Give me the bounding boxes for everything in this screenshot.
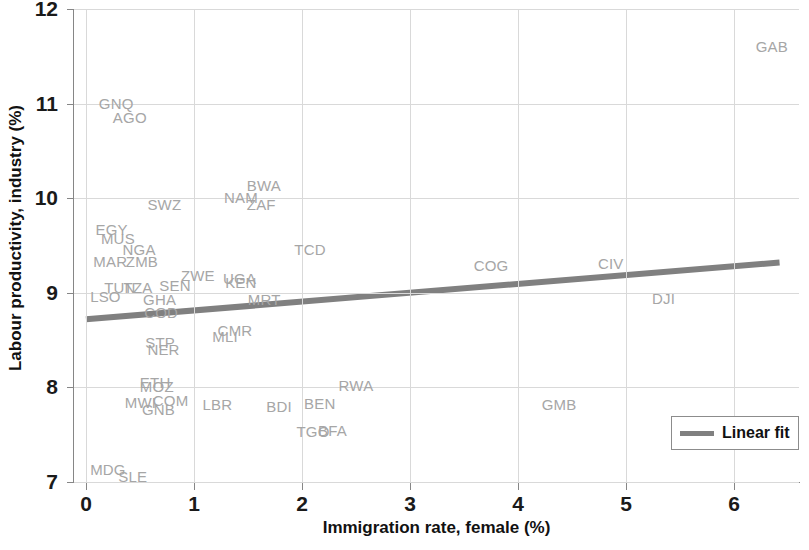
x-axis-tick	[626, 483, 627, 490]
data-point-label: BDI	[266, 399, 292, 414]
data-point-label: MLI	[212, 329, 238, 344]
y-axis-tick-label: 10	[18, 187, 58, 208]
data-point-label: SLE	[118, 469, 147, 484]
data-point-label: LSO	[90, 289, 121, 304]
y-axis-tick	[67, 387, 74, 388]
data-point-label: NER	[147, 342, 179, 357]
data-point-label: KEN	[225, 275, 256, 290]
data-point-label: SWZ	[147, 197, 181, 212]
grid-line-vertical	[410, 9, 411, 482]
data-point-label: GMB	[542, 397, 577, 412]
data-point-label: ZMB	[126, 254, 158, 269]
x-axis-tick	[302, 483, 303, 490]
data-point-label: RWA	[339, 378, 374, 393]
legend: Linear fit	[671, 416, 799, 450]
grid-line-horizontal	[73, 104, 799, 105]
y-axis-tick	[67, 198, 74, 199]
y-axis-tick	[67, 9, 74, 10]
grid-line-vertical	[194, 9, 195, 482]
data-point-label: MAR	[93, 254, 127, 269]
plot-area: GABGNQAGOBWANAMZAFSWZEGYMUSNGATCDMARZMBC…	[73, 9, 799, 482]
data-point-label: COG	[474, 258, 509, 273]
grid-line-vertical	[86, 9, 87, 482]
y-axis-tick-label: 9	[18, 282, 58, 303]
x-axis-tick	[518, 483, 519, 490]
x-axis-tick-label: 6	[714, 493, 754, 514]
data-point-label: ZAF	[247, 197, 276, 212]
x-axis-tick-label: 1	[174, 493, 214, 514]
grid-line-horizontal	[73, 482, 799, 483]
legend-label: Linear fit	[722, 424, 790, 442]
x-axis-tick	[86, 483, 87, 490]
x-axis-tick-label: 5	[606, 493, 646, 514]
y-axis-tick-label: 11	[18, 93, 58, 114]
x-axis-tick	[734, 483, 735, 490]
data-point-label: GNB	[142, 402, 175, 417]
data-point-label: TCD	[294, 242, 325, 257]
linear-fit-line	[73, 9, 799, 482]
y-axis-tick	[67, 293, 74, 294]
x-axis-tick-label: 2	[282, 493, 322, 514]
y-axis-tick-label: 8	[18, 376, 58, 397]
y-axis-tick	[67, 482, 74, 483]
y-axis-tick	[67, 104, 74, 105]
data-point-label: GAB	[756, 39, 788, 54]
grid-line-vertical	[518, 9, 519, 482]
x-axis-tick	[194, 483, 195, 490]
data-point-label: BFA	[318, 423, 347, 438]
y-axis-tick-label: 7	[18, 471, 58, 492]
grid-line-vertical	[734, 9, 735, 482]
grid-line-horizontal	[73, 387, 799, 388]
data-point-label: COD	[144, 305, 178, 320]
data-point-label: CIV	[598, 256, 624, 271]
x-axis-tick-label: 0	[66, 493, 106, 514]
x-axis-title: Immigration rate, female (%)	[73, 518, 800, 538]
data-point-label: AGO	[113, 110, 147, 125]
data-point-label: DJI	[652, 291, 675, 306]
y-axis-title-container: Labour productivity, industry (%)	[0, 0, 30, 490]
x-axis-tick	[410, 483, 411, 490]
x-axis-tick-label: 3	[390, 493, 430, 514]
scatter-chart: Labour productivity, industry (%) GABGNQ…	[0, 0, 809, 550]
legend-line-swatch	[680, 431, 714, 436]
data-point-label: BEN	[304, 396, 335, 411]
grid-line-vertical	[626, 9, 627, 482]
data-point-label: LBR	[202, 397, 232, 412]
y-axis-tick-label: 12	[18, 0, 58, 19]
data-point-label: MRT	[248, 292, 281, 307]
grid-line-horizontal	[73, 9, 799, 10]
x-axis-tick-label: 4	[498, 493, 538, 514]
grid-line-horizontal	[73, 198, 799, 199]
